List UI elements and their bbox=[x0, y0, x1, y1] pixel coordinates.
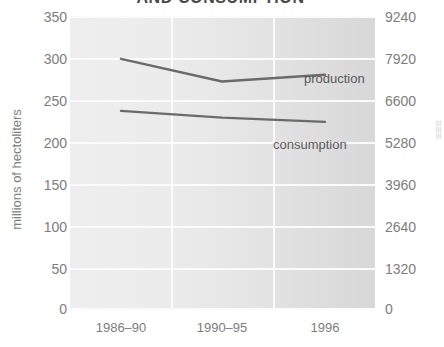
series-lines bbox=[70, 16, 375, 310]
y-axis-title: millions of hectoliters bbox=[9, 70, 24, 270]
tick-label-right: 1320 bbox=[385, 262, 416, 276]
tick-label-left: 100 bbox=[44, 220, 67, 234]
tick-label-left: 350 bbox=[44, 10, 67, 24]
tick-label-x: 1986–90 bbox=[96, 320, 147, 335]
tick-label-left: 300 bbox=[44, 52, 67, 66]
tick-label-x: 1996 bbox=[311, 320, 340, 335]
line-production bbox=[121, 59, 325, 82]
tick-label-left: 0 bbox=[59, 302, 67, 316]
tick-label-right: 6600 bbox=[385, 94, 416, 108]
tick-label-right: 9240 bbox=[385, 10, 416, 24]
tick-label-left: 150 bbox=[44, 178, 67, 192]
clipped-edge-text: ≡≡≡ bbox=[432, 120, 444, 230]
series-label-production: production bbox=[304, 71, 365, 86]
tick-label-x: 1990–95 bbox=[197, 320, 248, 335]
line-consumption bbox=[121, 111, 325, 122]
tick-label-right: 2640 bbox=[385, 220, 416, 234]
tick-label-right: 7920 bbox=[385, 52, 416, 66]
series-label-consumption: consumption bbox=[273, 137, 347, 152]
plot-area: production consumption bbox=[70, 16, 375, 310]
tick-label-left: 200 bbox=[44, 136, 67, 150]
tick-label-right: 5280 bbox=[385, 136, 416, 150]
chart-title: AND CONSUMPTION bbox=[0, 0, 441, 7]
tick-label-right: 0 bbox=[385, 302, 393, 316]
tick-label-left: 50 bbox=[51, 262, 67, 276]
tick-label-left: 250 bbox=[44, 94, 67, 108]
tick-label-right: 3960 bbox=[385, 178, 416, 192]
